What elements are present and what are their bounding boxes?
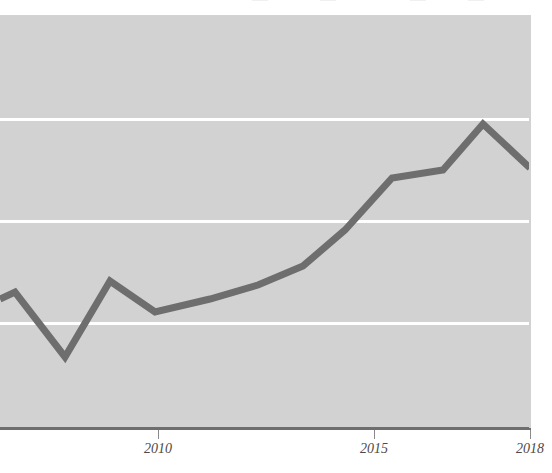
- legend-swatch-1: [320, 0, 336, 1]
- x-tick-2010: [158, 430, 159, 439]
- legend-swatch-3: [468, 0, 484, 1]
- series-line-1: [0, 124, 530, 357]
- legend-swatch-0: [252, 0, 268, 1]
- x-tick-label-2015: 2015: [360, 441, 388, 457]
- chart-legend: [0, 0, 552, 6]
- x-tick-label-2018: 2018: [516, 441, 544, 457]
- series-line-group: [0, 15, 531, 428]
- x-tick-2018: [530, 430, 531, 439]
- x-tick-2015: [374, 430, 375, 439]
- legend-swatch-2: [410, 0, 426, 1]
- line-chart-figure: 201020152018: [0, 0, 552, 473]
- x-tick-label-2010: 2010: [144, 441, 172, 457]
- plot-area: [0, 15, 531, 428]
- plot-right-edge: [529, 15, 531, 428]
- x-axis-line: [0, 427, 531, 430]
